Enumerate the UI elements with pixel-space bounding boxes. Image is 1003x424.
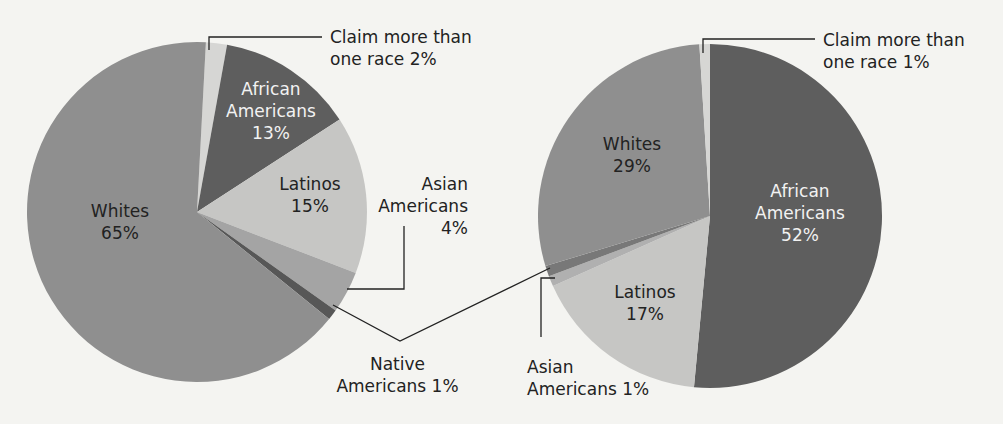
label-left-latinos: Latinos 15% [270, 173, 350, 217]
label-right-asian-americans: Asian Americans 1% [527, 356, 649, 400]
label-right-latinos: Latinos 17% [605, 281, 685, 325]
label-left-whites: Whites 65% [80, 200, 160, 244]
label-native-americans: Native Americans 1% [320, 353, 475, 397]
label-right-whites: Whites 29% [592, 133, 672, 177]
leader-right-asian [541, 278, 555, 337]
label-right-claim: Claim more than one race 1% [823, 29, 965, 73]
label-left-african-americans: African Americans 13% [214, 78, 328, 144]
label-left-asian-americans: Asian Americans 4% [360, 173, 468, 239]
leader-native-americans [333, 268, 550, 341]
label-right-african-americans: African Americans 52% [735, 180, 865, 246]
label-left-claim: Claim more than one race 2% [330, 26, 472, 70]
